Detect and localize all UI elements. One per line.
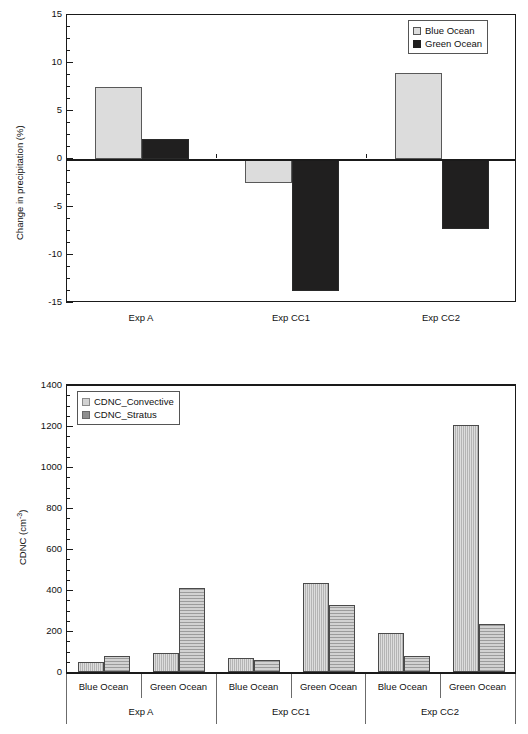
cdnc-ocean-label: Blue Ocean — [365, 681, 440, 692]
precipitation-y-tick-label: -10 — [32, 248, 62, 259]
legend-label-blue-ocean: Blue Ocean — [425, 25, 475, 36]
precipitation-zero-line — [67, 159, 515, 161]
cdnc-group-label: Exp CC2 — [365, 706, 515, 717]
precipitation-y-tick-label: 10 — [32, 56, 62, 67]
precipitation-bar — [95, 87, 142, 159]
cdnc-plot-area — [67, 385, 515, 672]
precipitation-x-tick-label: Exp CC1 — [216, 312, 366, 323]
precipitation-y-tick-label: -15 — [32, 296, 62, 307]
cdnc-bar — [104, 656, 130, 672]
cdnc-bar — [453, 425, 479, 672]
legend-swatch-cdnc-stratus — [82, 411, 90, 419]
cdnc-group-separator — [515, 698, 516, 724]
legend-item-green-ocean: Green Ocean — [413, 37, 482, 50]
cdnc-bar — [179, 588, 205, 672]
cdnc-ocean-label: Green Ocean — [291, 681, 366, 692]
cdnc-group-label: Exp A — [66, 706, 216, 717]
cdnc-bar — [378, 633, 404, 672]
precipitation-y-tick-label: 15 — [32, 8, 62, 19]
cdnc-y-tick — [66, 672, 73, 673]
cdnc-y-tick-label: 1200 — [26, 420, 62, 431]
cdnc-right-axis-line — [515, 384, 516, 673]
precipitation-plot-area — [67, 15, 515, 301]
cdnc-group-label: Exp CC1 — [216, 706, 366, 717]
precipitation-change-panel: Change in precipitation (%) 151050-5-10-… — [0, 0, 528, 345]
precipitation-x-tick-label: Exp CC2 — [366, 312, 516, 323]
cdnc-bar — [254, 660, 280, 672]
cdnc-ocean-label: Blue Ocean — [66, 681, 141, 692]
legend-swatch-green-ocean — [413, 40, 421, 48]
precipitation-bar — [442, 159, 489, 229]
precipitation-bar — [245, 159, 292, 183]
cdnc-ocean-label: Green Ocean — [440, 681, 515, 692]
cdnc-ocean-label: Blue Ocean — [216, 681, 291, 692]
precipitation-y-tick-label: -5 — [32, 200, 62, 211]
precipitation-y-tick — [66, 302, 73, 303]
legend-label-green-ocean: Green Ocean — [425, 38, 482, 49]
cdnc-bar — [153, 653, 179, 672]
legend-swatch-blue-ocean — [413, 27, 421, 35]
cdnc-bar — [479, 624, 505, 672]
cdnc-y-tick-label: 800 — [26, 502, 62, 513]
cdnc-legend: CDNC_Convective CDNC_Stratus — [77, 391, 180, 425]
figure-page: Change in precipitation (%) 151050-5-10-… — [0, 0, 528, 734]
cdnc-bar — [78, 662, 104, 672]
cdnc-y-tick-label: 1400 — [26, 379, 62, 390]
cdnc-bar — [303, 583, 329, 672]
cdnc-axis-separator — [515, 674, 516, 698]
legend-item-cdnc-stratus: CDNC_Stratus — [82, 408, 174, 421]
cdnc-ocean-label: Green Ocean — [141, 681, 216, 692]
cdnc-bar — [228, 658, 254, 672]
precipitation-y-tick-label: 0 — [32, 152, 62, 163]
cdnc-y-tick-label: 1000 — [26, 461, 62, 472]
cdnc-y-axis-label-exponent: -3 — [16, 513, 23, 519]
legend-swatch-cdnc-convective — [82, 398, 90, 406]
legend-label-cdnc-convective: CDNC_Convective — [94, 396, 174, 407]
legend-label-cdnc-stratus: CDNC_Stratus — [94, 409, 157, 420]
precipitation-y-tick-label: 5 — [32, 104, 62, 115]
precipitation-x-tick-label: Exp A — [66, 312, 216, 323]
cdnc-y-tick-label: 200 — [26, 625, 62, 636]
precipitation-legend: Blue Ocean Green Ocean — [408, 20, 488, 54]
legend-item-blue-ocean: Blue Ocean — [413, 24, 482, 37]
cdnc-y-tick-label: 0 — [26, 666, 62, 677]
precipitation-bar — [142, 139, 189, 159]
precipitation-bar — [292, 159, 339, 291]
legend-item-cdnc-convective: CDNC_Convective — [82, 395, 174, 408]
precipitation-bar — [395, 73, 442, 159]
cdnc-panel: CDNC (cm-3) 0200400600800100012001400 Bl… — [0, 355, 528, 734]
cdnc-y-axis-label: CDNC (cm-3) — [16, 510, 28, 565]
cdnc-bar — [404, 656, 430, 672]
cdnc-y-tick-label: 600 — [26, 543, 62, 554]
cdnc-y-tick-label: 400 — [26, 584, 62, 595]
precipitation-y-axis-label: Change in precipitation (%) — [14, 125, 25, 240]
cdnc-bar — [329, 605, 355, 672]
